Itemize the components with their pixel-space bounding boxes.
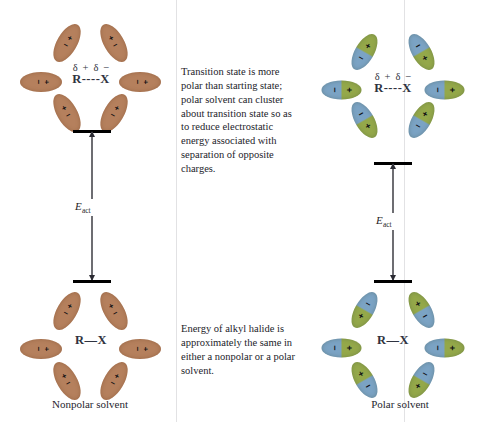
molecule-body	[403, 288, 439, 332]
panel-divider-left	[176, 0, 177, 422]
nonpolar-ts-molecule-3: + −	[20, 72, 62, 92]
polar-ts-molecule-6: + −	[403, 98, 439, 142]
nonpolar-ts-molecule-4: + −	[119, 72, 161, 92]
polar-gs-molecule-3: + −	[322, 339, 362, 358]
nonpolar-gs-molecule-3: + −	[20, 339, 62, 359]
nonpolar-gs-molecule-1: + −	[48, 288, 86, 334]
transition-state-formula: R----X	[366, 82, 420, 95]
molecule-body	[425, 81, 465, 100]
left-panel-caption: Nonpolar solvent	[30, 398, 150, 410]
molecule-sign-positive: +	[42, 72, 50, 92]
left-ground-state-label: R—X	[64, 334, 118, 347]
molecule-body	[403, 98, 439, 142]
right-ground-state-energy-bar	[374, 280, 412, 283]
molecule-sign-positive: +	[141, 72, 149, 92]
panel-divider-right	[404, 0, 405, 422]
right-transition-state-label: δ+δ− R----X	[366, 71, 420, 95]
ground-state-formula: R—X	[64, 334, 118, 347]
molecule-body	[403, 30, 439, 74]
molecule-sign-negative: −	[34, 72, 42, 92]
molecule-sign-negative: −	[34, 339, 42, 359]
left-ground-state-energy-bar	[73, 280, 111, 283]
polar-gs-molecule-1: − +	[346, 288, 382, 332]
molecule-sign-negative: −	[432, 81, 441, 100]
molecule-sign-negative: −	[133, 339, 141, 359]
molecule-sign-positive: +	[141, 339, 149, 359]
right-activation-energy-label: Eact	[373, 213, 395, 230]
polar-ts-molecule-2: − +	[403, 30, 439, 74]
nonpolar-gs-molecule-4: + −	[119, 339, 161, 359]
polar-gs-molecule-2: + −	[403, 288, 439, 332]
polar-ts-molecule-1: + −	[346, 30, 382, 74]
transition-state-note: Transition state is more polar than star…	[181, 65, 299, 176]
polar-gs-molecule-4: + −	[425, 339, 465, 358]
right-ground-state-label: R—X	[366, 334, 420, 347]
molecule-body	[346, 288, 382, 332]
molecule-sign-negative: −	[432, 339, 441, 358]
molecule-body	[425, 339, 465, 358]
molecule-sign-positive: +	[447, 339, 456, 358]
nonpolar-gs-molecule-2: + −	[95, 288, 133, 334]
molecule-sign-negative: −	[329, 339, 338, 358]
polar-gs-molecule-5: + −	[346, 358, 382, 402]
molecule-sign-positive: +	[447, 81, 456, 100]
left-transition-state-label: δ+δ− R----X	[64, 62, 118, 86]
molecule-body	[403, 358, 439, 402]
molecule-body	[346, 98, 382, 142]
polar-gs-molecule-6: − +	[403, 358, 439, 402]
left-activation-energy-label: Eact	[72, 199, 94, 216]
molecule-sign-negative: −	[329, 81, 338, 100]
ground-state-formula: R—X	[366, 334, 420, 347]
molecule-sign-positive: +	[42, 339, 50, 359]
nonpolar-ts-molecule-1: + −	[48, 20, 86, 66]
molecule-sign-negative: −	[133, 72, 141, 92]
molecule-body	[346, 358, 382, 402]
figure-canvas: + − + − + − + − + − + − δ+δ− R----X Eact	[0, 0, 489, 422]
right-panel-caption: Polar solvent	[340, 398, 460, 410]
polar-ts-molecule-5: − +	[346, 98, 382, 142]
molecule-sign-positive: +	[344, 81, 353, 100]
polar-ts-molecule-3: + −	[322, 81, 362, 100]
nonpolar-ts-molecule-2: + −	[95, 20, 133, 66]
transition-state-formula: R----X	[64, 73, 118, 86]
ground-state-note: Energy of alkyl halide is approximately …	[181, 322, 299, 377]
molecule-sign-positive: +	[344, 339, 353, 358]
molecule-body	[346, 30, 382, 74]
polar-ts-molecule-4: + −	[425, 81, 465, 100]
molecule-body	[322, 81, 362, 100]
molecule-body	[322, 339, 362, 358]
